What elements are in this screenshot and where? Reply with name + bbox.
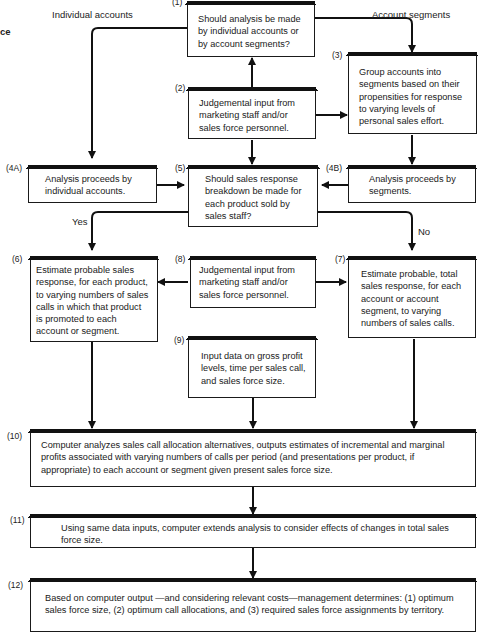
step-12-text: Based on computer output —and considerin… [45, 593, 454, 615]
step-number: (8) [175, 254, 185, 264]
step-8-text: Judgemental input from marketing staff a… [199, 265, 295, 300]
step-number: (6) [12, 254, 22, 264]
step-10-text: Computer analyzes sales call allocation … [41, 440, 444, 475]
step-10-box: Computer analyzes sales call allocation … [30, 429, 476, 487]
arrow-1-to-3 [315, 18, 412, 52]
step-number: (11) [10, 515, 25, 525]
step-number: (3) [332, 50, 342, 60]
step-number: (5) [175, 163, 185, 173]
step-9-text: Input data on gross profit levels, time … [201, 351, 306, 386]
label-account-segments: Account segments [372, 9, 450, 20]
step-12-box: Based on computer output —and considerin… [30, 578, 476, 632]
step-7-text: Estimate probable, total sales response,… [361, 269, 461, 328]
step-3-text: Group accounts into segments based on th… [359, 67, 462, 126]
step-11-box: Using same data inputs, computer extends… [30, 514, 476, 548]
title-fragment: ce [0, 26, 11, 37]
step-number: (2) [175, 83, 185, 93]
step-11-text: Using same data inputs, computer extends… [61, 523, 449, 545]
step-5-box: Should sales response breakdown be made … [188, 165, 318, 227]
step-number: (4A) [6, 163, 22, 173]
arrow-1-to-4a [92, 28, 188, 158]
step-5-text: Should sales response breakdown be made … [205, 174, 302, 221]
step-4b-box: Analysis proceeds by segments. [348, 165, 476, 203]
step-number: (10) [7, 431, 22, 441]
step-7-box: Estimate probable, total sales response,… [348, 256, 476, 338]
step-8-box: Judgemental input from marketing staff a… [190, 256, 316, 308]
step-number: (7) [335, 254, 345, 264]
arrow-5-to-7 [318, 212, 412, 250]
step-4a-text: Analysis proceeds by individual accounts… [45, 174, 132, 196]
step-1-text: Should analysis be made by individual ac… [198, 14, 301, 49]
arrow-5-to-6 [92, 212, 188, 250]
step-2-box: Judgemental input from marketing staff a… [188, 87, 316, 139]
step-3-box: Group accounts into segments based on th… [348, 52, 477, 134]
step-number: (4B) [326, 163, 342, 173]
label-individual-accounts: Individual accounts [52, 9, 133, 20]
step-9-box: Input data on gross profit levels, time … [188, 336, 316, 398]
label-yes: Yes [72, 216, 88, 227]
step-4a-box: Analysis proceeds by individual accounts… [28, 165, 157, 203]
step-6-text: Estimate probable sales response, for ea… [36, 265, 148, 336]
step-number: (12) [8, 580, 23, 590]
step-4b-text: Analysis proceeds by segments. [369, 174, 456, 196]
step-number: (1) [172, 0, 182, 7]
step-number: (9) [174, 335, 184, 345]
step-2-text: Judgemental input from marketing staff a… [199, 98, 295, 133]
step-6-box: Estimate probable sales response, for ea… [30, 256, 158, 342]
step-1-box: Should analysis be made by individual ac… [187, 1, 315, 57]
label-no: No [418, 226, 430, 237]
